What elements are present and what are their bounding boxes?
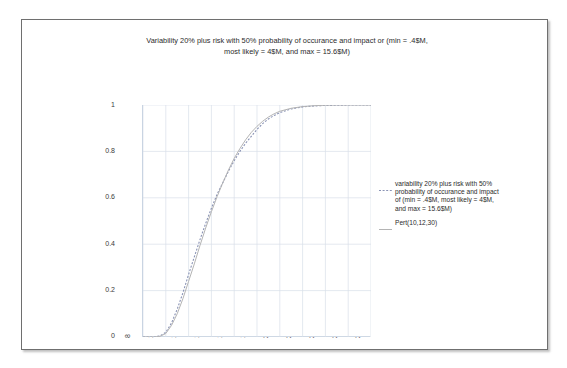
legend-label-pert-line-1: Pert(10,12,30) <box>395 219 437 227</box>
y-tick-label-0.2: 0.2 <box>89 286 115 294</box>
legend-entry-variability-risk: variability 20% plus risk with 50% proba… <box>379 180 504 213</box>
legend-swatch-dashed-icon <box>379 181 392 190</box>
legend-entry-pert: Pert(10,12,30) <box>379 219 504 228</box>
chart-title: Variability 20% plus risk with 50% proba… <box>82 36 492 57</box>
chart-frame: Variability 20% plus risk with 50% proba… <box>21 19 548 350</box>
legend-swatch-solid-icon <box>379 220 392 229</box>
chart-canvas <box>143 105 371 337</box>
chart-title-line-1: Variability 20% plus risk with 50% proba… <box>82 36 492 47</box>
gridlines <box>143 105 371 337</box>
y-tick-label-0.4: 0.4 <box>89 240 115 248</box>
y-tick-label-0.6: 0.6 <box>89 193 115 201</box>
y-tick-label-0: 0 <box>89 332 115 340</box>
legend-label-line-2: probability of occurance and impact <box>395 188 499 196</box>
chart-legend: variability 20% plus risk with 50% proba… <box>379 180 504 234</box>
legend-label-line-1: variability 20% plus risk with 50% <box>395 180 499 188</box>
chart-title-line-2: most likely = 4$M, and max = 15.6$M) <box>82 47 492 58</box>
legend-label-line-3: of (min = .4$M, most likely = 4$M, <box>395 196 499 204</box>
y-tick-label-1: 1 <box>89 101 115 109</box>
y-tick-label-0.8: 0.8 <box>89 147 115 155</box>
legend-label-line-4: and max = 15.6$M) <box>395 205 499 213</box>
legend-label-pert: Pert(10,12,30) <box>395 219 437 227</box>
plot-area <box>142 105 370 337</box>
screenshot-root: Variability 20% plus risk with 50% proba… <box>0 0 567 368</box>
x-tick-label-8: 8 <box>124 334 131 338</box>
legend-label-variability-risk: variability 20% plus risk with 50% proba… <box>395 180 499 213</box>
